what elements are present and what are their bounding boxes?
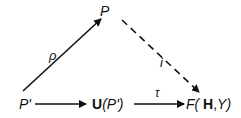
y-label: Y) — [217, 96, 231, 112]
h-label: H — [199, 96, 213, 112]
f-label: F( — [186, 96, 199, 112]
edge-label-rho: ρ — [49, 49, 56, 62]
edge-label-tau: τ — [155, 87, 160, 99]
arrow-rho — [23, 19, 101, 91]
node-p-prime: P' — [19, 97, 31, 111]
node-u-p-prime: U(P') — [92, 97, 123, 111]
node-p: P — [100, 4, 109, 18]
node-f-hy: F( H,Y) — [186, 97, 231, 111]
u-bold: U — [92, 96, 102, 112]
edge-label-i: i — [160, 56, 163, 69]
u-arg: (P') — [102, 96, 123, 112]
